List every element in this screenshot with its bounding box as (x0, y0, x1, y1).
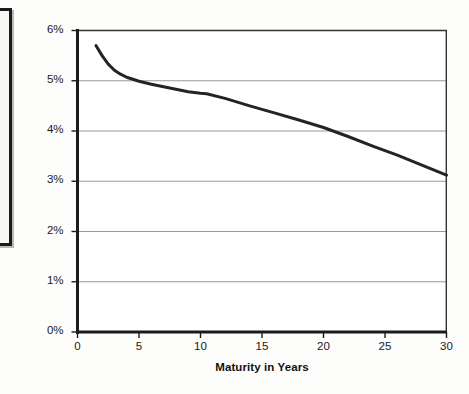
x-axis-tick-label: 30 (430, 340, 464, 352)
y-axis-tick-label: 0% (30, 324, 64, 336)
y-axis-tick-label: 3% (30, 173, 64, 185)
x-axis-tick-label: 5 (122, 340, 156, 352)
x-axis-tick-label: 20 (307, 340, 341, 352)
y-axis-tick-label: 6% (30, 23, 64, 35)
y-axis-tick-label: 1% (30, 274, 64, 286)
x-axis-tick-label: 25 (368, 340, 402, 352)
y-axis-tick-label: 4% (30, 123, 64, 135)
x-axis-tick-label: 0 (61, 340, 95, 352)
y-axis-tick-label: 5% (30, 73, 64, 85)
chart-page: 0%1%2%3%4%5%6% 051015202530 Yield to Mat… (0, 0, 469, 394)
y-axis-tick-label: 2% (30, 224, 64, 236)
x-axis-tick-label: 15 (245, 340, 279, 352)
x-axis-tick-label: 10 (184, 340, 218, 352)
yield-curve-chart (0, 0, 469, 394)
x-axis-title: Maturity in Years (76, 361, 448, 373)
